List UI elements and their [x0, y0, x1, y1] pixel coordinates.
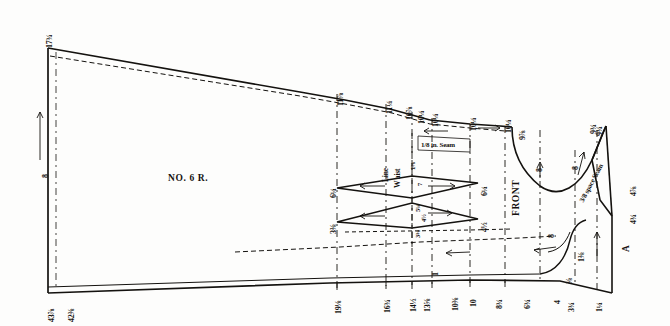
- label-dart-right-lower: 4½: [481, 222, 489, 232]
- label-bottom-scale-10: 3¾: [568, 302, 576, 312]
- label-top-scale-1: 11¼: [386, 101, 394, 114]
- label-bottom-scale-3: 13⅝: [424, 299, 432, 312]
- label-bottom-scale-5: 10⅜: [452, 298, 460, 311]
- dart-upper: [337, 176, 478, 198]
- label-dart-left-upper: 6¼: [330, 188, 338, 198]
- arrow-bottom-right-head: [534, 248, 540, 253]
- pattern-caption: NO. 6 R.: [168, 174, 208, 182]
- outline-front-neck: [606, 126, 612, 216]
- label-top-scale-6: 10¼: [505, 120, 513, 133]
- label-top-scale-2: 10⅞: [406, 107, 414, 120]
- label-top-scale-3: 10¼: [418, 111, 426, 124]
- label-bottom-scale-9: 4: [554, 300, 562, 304]
- pattern-draft-sheet: 17¾ 8 43⅞ 42⅜ NO. 6 R. 11⅞ 11¼ 10⅞ 10¼ 1…: [0, 0, 670, 326]
- label-point-a: A: [622, 245, 630, 252]
- label-right-9-3-4: 9¾: [590, 124, 598, 134]
- label-right-4-7-8: 4⅞: [630, 186, 638, 196]
- label-right-1-3-8: 1⅜: [578, 252, 586, 262]
- label-front: FRONT: [512, 180, 520, 216]
- label-dart-inner-lower-b: 4½: [420, 214, 428, 222]
- label-dart-inner-upper: 7: [416, 183, 424, 186]
- label-top-scale-5: 10¼: [470, 118, 478, 131]
- label-dart-inner-lower-a: 5¼: [414, 204, 422, 212]
- label-dart-left-lower: 3⅜: [330, 224, 338, 234]
- label-left-vertical-8: 8: [42, 174, 50, 178]
- front-hem-curve: [540, 220, 586, 274]
- label-bottom-scale-11: 1¼: [596, 302, 604, 312]
- label-waist-line-2: Line: [382, 168, 390, 182]
- label-top-scale-0: 11⅞: [337, 93, 345, 106]
- dart-lower: [337, 203, 478, 228]
- label-waist-line-1: W aist: [394, 169, 402, 188]
- dashed-diagonal-lower: [235, 236, 556, 252]
- label-dart-right-upper: 6¼: [481, 186, 489, 196]
- label-right-3-8: ⅜: [566, 278, 574, 284]
- label-bottom-left-a: 43⅞: [48, 309, 56, 322]
- label-top-scale-4: 10¼: [432, 114, 440, 127]
- label-right-4-3-4: 4¾: [630, 214, 638, 224]
- label-top-left: 17¾: [46, 35, 54, 48]
- outline-top-edge: [48, 48, 430, 120]
- outline-bottom-edge: [48, 280, 612, 293]
- label-dart-inner-lower-c: 3⅜: [414, 230, 422, 238]
- label-neck-8: 8: [572, 166, 580, 170]
- label-seam-top: 1/8 in. Seam: [421, 141, 455, 149]
- label-bottom-scale-1: 16¾: [384, 300, 392, 313]
- arrow-bottom-mid: [446, 252, 470, 253]
- label-bottom-scale-0: 19⅛: [335, 301, 343, 314]
- label-bottom-scale-4: 1: [432, 272, 440, 276]
- label-bottom-scale-8: 6¾: [524, 299, 532, 309]
- label-bottom-scale-6: 10: [470, 299, 478, 307]
- label-hem-8: 8: [548, 234, 556, 238]
- label-dart-mark-1: 1⅛: [409, 162, 417, 170]
- label-bottom-scale-7: 8¾: [496, 299, 504, 309]
- label-bottom-left-b: 42⅜: [68, 309, 76, 322]
- label-bottom-scale-2: 14½: [410, 299, 418, 312]
- label-armhole-8: 8: [536, 168, 544, 172]
- label-top-scale-7: 9⅞: [519, 130, 527, 140]
